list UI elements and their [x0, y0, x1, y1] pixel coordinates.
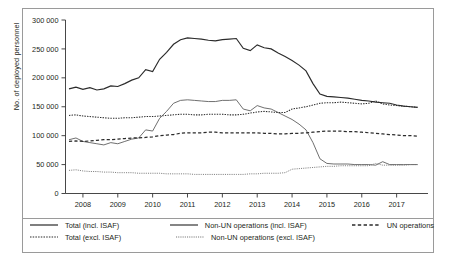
- x-tick-label: 2016: [354, 200, 370, 209]
- legend-swatch-solid: [30, 221, 58, 229]
- y-axis-label: No. of deployed personnel: [12, 0, 21, 137]
- legend-swatch-dotted-thin: [176, 233, 204, 241]
- legend-row-top: Total (incl. ISAF) Non-UN operations (in…: [22, 219, 434, 231]
- legend-label-total-excl-isaf: Total (excl. ISAF): [65, 233, 121, 242]
- y-tick-label: 100 000: [32, 131, 58, 140]
- series-line-total-excl-isaf: [69, 101, 418, 118]
- plot-svg: 050 000100 000150 000200 000250 000300 0…: [0, 0, 449, 218]
- legend-label-un-operations: UN operations: [387, 221, 434, 230]
- plot-area: No. of deployed personnel 050 000100 000…: [0, 0, 449, 218]
- x-tick-label: 2015: [319, 200, 335, 209]
- legend-item-un-operations[interactable]: UN operations: [352, 221, 434, 230]
- x-tick-label: 2011: [180, 200, 196, 209]
- legend-label-nonun-incl-isaf: Non-UN operations (incl. ISAF): [205, 221, 307, 230]
- data-series-group: [69, 38, 418, 174]
- chart-figure: No. of deployed personnel 050 000100 000…: [0, 0, 449, 259]
- legend-item-total-incl-isaf[interactable]: Total (incl. ISAF): [22, 221, 170, 230]
- x-tick-label: 2017: [389, 200, 405, 209]
- y-tick-label: 0: [54, 189, 58, 198]
- y-tick-label: 250 000: [32, 45, 58, 54]
- x-tick-label: 2008: [75, 200, 91, 209]
- y-tick-label: 150 000: [32, 102, 58, 111]
- legend-swatch-dashed: [352, 221, 380, 229]
- x-tick-label: 2009: [110, 200, 126, 209]
- legend-item-total-excl-isaf[interactable]: Total (excl. ISAF): [22, 233, 176, 242]
- x-tick-label: 2014: [284, 200, 300, 209]
- x-tick-label: 2013: [249, 200, 265, 209]
- legend-item-nonun-incl-isaf[interactable]: Non-UN operations (incl. ISAF): [170, 221, 352, 230]
- series-line-total-incl-isaf: [69, 38, 418, 107]
- legend-swatch-solid-thin: [170, 221, 198, 229]
- legend-row-bottom: Total (excl. ISAF) Non-UN operations (ex…: [22, 231, 434, 243]
- series-line-un-operations: [69, 131, 418, 141]
- legend-swatch-dotted: [30, 233, 58, 241]
- x-axis-ticks: 2008200920102011201220132014201520162017: [75, 194, 405, 209]
- y-tick-label: 50 000: [36, 160, 58, 169]
- y-axis-ticks: 050 000100 000150 000200 000250 000300 0…: [32, 16, 65, 199]
- y-tick-label: 200 000: [32, 73, 58, 82]
- series-line-non-un-operations-excl-isaf: [69, 163, 418, 174]
- x-tick-label: 2010: [145, 200, 161, 209]
- chart-legend: Total (incl. ISAF) Non-UN operations (in…: [22, 219, 434, 253]
- y-tick-label: 300 000: [32, 16, 58, 25]
- legend-label-total-incl-isaf: Total (incl. ISAF): [65, 221, 119, 230]
- legend-label-nonun-excl-isaf: Non-UN operations (excl. ISAF): [211, 233, 315, 242]
- legend-item-nonun-excl-isaf[interactable]: Non-UN operations (excl. ISAF): [176, 233, 366, 242]
- x-tick-label: 2012: [214, 200, 230, 209]
